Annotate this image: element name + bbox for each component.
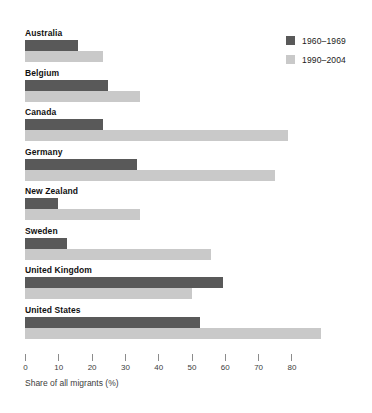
axis-tick-label: 70 bbox=[254, 363, 263, 372]
category-label: Belgium bbox=[25, 68, 59, 78]
bar-period-2 bbox=[25, 288, 192, 299]
bar-period-2 bbox=[25, 328, 321, 339]
axis-tick-label: 20 bbox=[88, 363, 97, 372]
bar-period-2 bbox=[25, 130, 288, 141]
bar-period-1 bbox=[25, 317, 200, 328]
axis-tick-label: 0 bbox=[23, 363, 27, 372]
axis-tick bbox=[158, 354, 159, 361]
bar-period-2 bbox=[25, 91, 140, 102]
axis-tick-label: 30 bbox=[121, 363, 130, 372]
bar-period-2 bbox=[25, 51, 103, 62]
axis-tick-label: 60 bbox=[221, 363, 230, 372]
bar-period-1 bbox=[25, 80, 108, 91]
bar-period-1 bbox=[25, 159, 137, 170]
axis-tick bbox=[192, 354, 193, 361]
axis-tick bbox=[258, 354, 259, 361]
category-label: United States bbox=[25, 305, 81, 315]
category-label: New Zealand bbox=[25, 186, 78, 196]
axis-tick bbox=[125, 354, 126, 361]
bar-period-2 bbox=[25, 209, 140, 220]
bar-period-1 bbox=[25, 40, 78, 51]
axis-tick bbox=[225, 354, 226, 361]
bar-period-1 bbox=[25, 238, 67, 249]
bar-chart: 1960–19691990–2004 AustraliaBelgiumCanad… bbox=[0, 0, 372, 413]
axis-tick bbox=[291, 354, 292, 361]
bar-period-1 bbox=[25, 198, 58, 209]
axis-tick bbox=[92, 354, 93, 361]
bar-period-2 bbox=[25, 249, 211, 260]
axis-tick-label: 10 bbox=[54, 363, 63, 372]
category-label: United Kingdom bbox=[25, 265, 92, 275]
axis-tick bbox=[58, 354, 59, 361]
bar-period-1 bbox=[25, 119, 103, 130]
axis-tick-label: 40 bbox=[154, 363, 163, 372]
x-axis-title: Share of all migrants (%) bbox=[25, 378, 119, 388]
axis-tick-label: 80 bbox=[287, 363, 296, 372]
bar-period-1 bbox=[25, 277, 223, 288]
axis-tick-label: 50 bbox=[188, 363, 197, 372]
category-label: Sweden bbox=[25, 226, 58, 236]
axis-tick bbox=[25, 354, 26, 361]
category-label: Australia bbox=[25, 28, 62, 38]
category-label: Canada bbox=[25, 107, 56, 117]
category-label: Germany bbox=[25, 147, 63, 157]
plot-area: AustraliaBelgiumCanadaGermanyNew Zealand… bbox=[0, 0, 372, 360]
bar-period-2 bbox=[25, 170, 275, 181]
x-axis: Share of all migrants (%) 01020304050607… bbox=[0, 352, 372, 413]
